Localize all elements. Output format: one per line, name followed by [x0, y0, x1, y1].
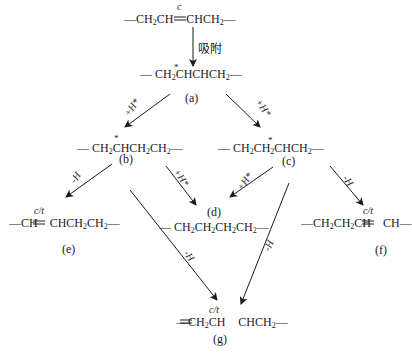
- product-e-formula: —CHCHCH2CH2—: [9, 216, 120, 234]
- start-formula: —CH2CHCHCH2—: [124, 12, 236, 30]
- adsorb-label: 吸附: [198, 39, 222, 56]
- intermediate-a-formula: — CH2CHCHCH2—: [140, 67, 242, 85]
- product-d-formula: — CH2CH2CH2CH2—: [159, 220, 269, 238]
- label-e: (e): [62, 242, 75, 256]
- radical-mark-b: *: [114, 133, 119, 143]
- cis-trans-mark-e: c/t: [34, 205, 44, 216]
- label-a: (a): [185, 91, 198, 105]
- cis-trans-mark-g: c/t: [209, 304, 219, 315]
- radical-mark-a: *: [174, 62, 179, 72]
- cis-trans-mark-f: c/t: [363, 205, 373, 216]
- product-g-formula: —CH2CHCHCH2—: [176, 315, 288, 333]
- label-d: (d): [207, 205, 221, 219]
- product-f-formula: —CH2CH2CHCH—: [301, 216, 412, 234]
- radical-mark-c: *: [268, 135, 273, 145]
- label-g: (g): [213, 332, 227, 346]
- label-f: (f): [375, 243, 387, 257]
- cis-mark: c: [177, 1, 181, 12]
- label-c: (c): [282, 154, 295, 168]
- label-b: (b): [119, 152, 133, 166]
